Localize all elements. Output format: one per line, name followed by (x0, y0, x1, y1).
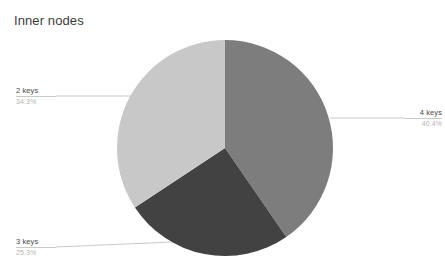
callout-percent-3-keys: 25.3% (16, 248, 56, 257)
callout-label-4-keys: 4 keys (404, 108, 442, 117)
pie-chart-panel: Inner nodes 2 keys 34.3% 4 keys 40.4% 3 … (0, 0, 445, 278)
callout-3-keys: 3 keys 25.3% (16, 237, 56, 257)
callout-4-keys: 4 keys 40.4% (404, 108, 442, 128)
callout-percent-2-keys: 34.3% (16, 97, 56, 106)
pie-chart-graphic (0, 0, 445, 278)
callout-label-3-keys: 3 keys (16, 237, 56, 246)
callout-label-2-keys: 2 keys (16, 86, 56, 95)
callout-2-keys: 2 keys 34.3% (16, 86, 56, 106)
callout-percent-4-keys: 40.4% (404, 119, 442, 128)
